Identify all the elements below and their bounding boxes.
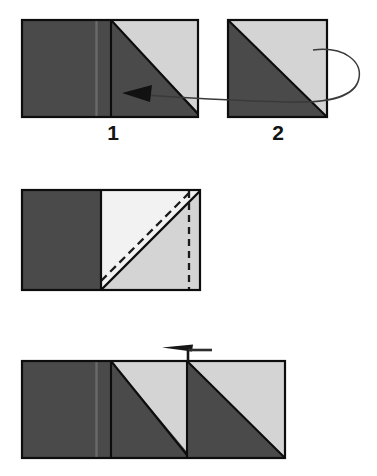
press-arrow [162,345,212,362]
step-top-group [22,20,359,117]
step-label-1: 1 [98,122,128,143]
unit-2-shape [228,20,327,117]
step-bottom-group [22,345,285,459]
middle-left-dark-rectangle [22,190,101,290]
step-label-2: 2 [263,122,293,143]
step-middle-group [22,190,200,290]
unit-1-shape [22,20,198,117]
figure-canvas: 1 2 [0,0,377,476]
assembly-diagram [0,0,377,476]
